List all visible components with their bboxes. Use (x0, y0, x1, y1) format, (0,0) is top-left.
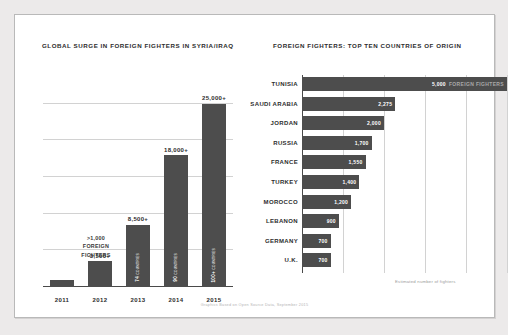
infographic-page: GLOBAL SURGE IN FOREIGN FIGHTERS IN SYRI… (0, 0, 508, 335)
left-bar-annotation-2014: 90 COUNTRIES (173, 253, 179, 282)
right-bar-value-GERMANY: 700 (318, 238, 327, 244)
right-bar-row-RUSSIA[interactable]: RUSSIA1,700 (302, 136, 507, 150)
left-chart-title: GLOBAL SURGE IN FOREIGN FIGHTERS IN SYRI… (42, 42, 234, 49)
right-bar-TURKEY[interactable]: 1,400 (302, 175, 359, 189)
right-bar-row-FRANCE[interactable]: FRANCE1,550 (302, 155, 507, 169)
right-bar-row-UK[interactable]: U.K.700 (302, 253, 507, 267)
right-chart-title: FOREIGN FIGHTERS: TOP TEN COUNTRIES OF O… (273, 42, 462, 49)
first-bar-annotation-line1: >1,000 (73, 234, 119, 242)
right-yaxis-label-FRANCE: FRANCE (247, 155, 298, 169)
right-bar-value-JORDAN: 2,000 (367, 120, 381, 126)
left-bar-group-2013[interactable]: 8,500+74 COUNTRIES (126, 225, 150, 287)
right-bar-FRANCE[interactable]: 1,550 (302, 155, 366, 169)
left-bar-group-2015[interactable]: 25,000+100+ COUNTRIES (202, 104, 226, 287)
right-bar-row-GERMANY[interactable]: GERMANY700 (302, 234, 507, 248)
right-bar-SAUDIARABIA[interactable]: 2,275 (302, 97, 395, 111)
right-chart-plot: TUNISIA5,000FOREIGN FIGHTERSSAUDI ARABIA… (302, 75, 507, 273)
right-yaxis-label-JORDAN: JORDAN (247, 116, 298, 130)
right-bar-unit-label: FOREIGN FIGHTERS (449, 81, 504, 87)
left-bar-2011[interactable] (50, 280, 74, 287)
right-bar-value-LEBANON: 900 (327, 218, 336, 224)
right-bar-UK[interactable]: 700 (302, 253, 331, 267)
right-chart-caption: Estimated number of fighters (395, 279, 456, 284)
right-bar-GERMANY[interactable]: 700 (302, 234, 331, 248)
right-yaxis-label-GERMANY: GERMANY (247, 234, 298, 248)
left-bar-value-2014: 18,000+ (164, 147, 188, 153)
right-yaxis-label-LEBANON: LEBANON (247, 214, 298, 228)
right-yaxis-label-UK: U.K. (247, 253, 298, 267)
right-bar-value-UK: 700 (318, 257, 327, 263)
right-bar-value-SAUDIARABIA: 2,275 (378, 101, 392, 107)
right-yaxis-label-SAUDIARABIA: SAUDI ARABIA (247, 97, 298, 111)
left-bar-value-2015: 25,000+ (202, 95, 226, 101)
left-bar-value-2013: 8,500+ (128, 216, 148, 222)
right-bar-TUNISIA[interactable]: 5,000FOREIGN FIGHTERS (302, 77, 507, 91)
right-bar-row-JORDAN[interactable]: JORDAN2,000 (302, 116, 507, 130)
first-bar-annotation-line3: FIGHTERS (73, 251, 119, 259)
left-bar-2012[interactable]: 3,500+ (88, 261, 112, 287)
right-bar-value-TURKEY: 1,400 (342, 179, 356, 185)
left-bar-chart: 20113,500+20128,500+74 COUNTRIES201318,0… (43, 75, 233, 305)
right-bar-row-LEBANON[interactable]: LEBANON900 (302, 214, 507, 228)
right-bar-value-MOROCCO: 1,200 (334, 199, 348, 205)
left-bar-annotation-2015: 100+ COUNTRIES (211, 248, 217, 282)
right-bar-value-RUSSIA: 1,700 (355, 140, 369, 146)
right-bar-row-SAUDIARABIA[interactable]: SAUDI ARABIA2,275 (302, 97, 507, 111)
right-yaxis-label-RUSSIA: RUSSIA (247, 136, 298, 150)
left-bar-group-2011[interactable] (50, 280, 74, 287)
right-bar-MOROCCO[interactable]: 1,200 (302, 195, 351, 209)
right-bar-row-MOROCCO[interactable]: MOROCCO1,200 (302, 195, 507, 209)
right-yaxis-label-TUNISIA: TUNISIA (247, 77, 298, 91)
source-note: Graphics Based on Open Source Data, Sept… (201, 303, 308, 307)
first-bar-annotation: >1,000 FOREIGN FIGHTERS (73, 234, 119, 259)
right-bar-JORDAN[interactable]: 2,000 (302, 116, 384, 130)
left-bar-group-2014[interactable]: 18,000+90 COUNTRIES (164, 155, 188, 287)
right-bar-LEBANON[interactable]: 900 (302, 214, 339, 228)
first-bar-annotation-line2: FOREIGN (73, 242, 119, 250)
right-yaxis-label-MOROCCO: MOROCCO (247, 195, 298, 209)
right-bar-value-TUNISIA: 5,000 (432, 81, 446, 87)
left-bar-2015[interactable]: 25,000+100+ COUNTRIES (202, 104, 226, 287)
left-bar-2014[interactable]: 18,000+90 COUNTRIES (164, 155, 188, 287)
infographic-card: GLOBAL SURGE IN FOREIGN FIGHTERS IN SYRI… (14, 14, 495, 318)
left-bar-2013[interactable]: 8,500+74 COUNTRIES (126, 225, 150, 287)
right-bar-RUSSIA[interactable]: 1,700 (302, 136, 372, 150)
left-bar-group-2012[interactable]: 3,500+ (88, 261, 112, 287)
right-bar-row-TURKEY[interactable]: TURKEY1,400 (302, 175, 507, 189)
left-bar-annotation-2013: 74 COUNTRIES (135, 253, 141, 282)
right-bar-value-FRANCE: 1,550 (349, 159, 363, 165)
right-yaxis-label-TURKEY: TURKEY (247, 175, 298, 189)
right-bar-row-TUNISIA[interactable]: TUNISIA5,000FOREIGN FIGHTERS (302, 77, 507, 91)
right-bar-chart: TUNISIA5,000FOREIGN FIGHTERSSAUDI ARABIA… (247, 75, 507, 290)
